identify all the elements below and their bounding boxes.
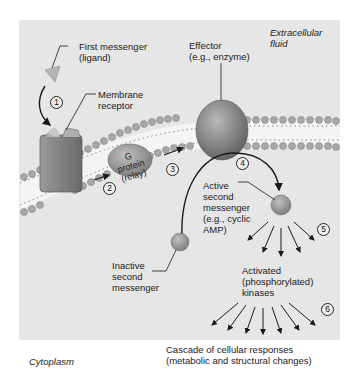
label-cytoplasm: Cytoplasm [29,356,74,367]
effector-shape [196,100,248,160]
label-first-messenger: First messenger (ligand) [79,41,147,63]
step-4-badge: 4 [236,157,249,170]
step-1-badge: 1 [50,96,63,109]
inactive-second-messenger-shape [171,233,189,251]
pathway-illustration [0,0,358,387]
step-2-badge: 2 [103,182,116,195]
membrane-receptor-shape [40,127,82,192]
active-second-messenger-shape [271,195,291,215]
label-effector: Effector (e.g., enzyme) [189,40,250,62]
label-active-second-messenger: Active second messenger (e.g., cyclic AM… [203,180,251,235]
step6-arrows [212,303,315,334]
label-inactive-second-messenger: Inactive second messenger [112,260,159,293]
step5-arrows [248,222,314,256]
step-5-badge: 5 [317,223,330,236]
step-6-badge: 6 [321,303,334,316]
ligand-shape [45,66,60,82]
label-kinases: Activated (phosphorylated) kinases [242,265,313,298]
label-extracellular-fluid: Extracellular fluid [270,27,322,49]
step-3-badge: 3 [166,163,179,176]
label-membrane-receptor: Membrane receptor [98,89,143,111]
label-cascade: Cascade of cellular responses (metabolic… [166,344,312,366]
